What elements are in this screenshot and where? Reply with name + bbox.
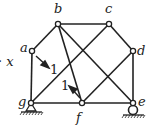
- label-a: a: [20, 40, 28, 55]
- label-e: e: [138, 94, 146, 109]
- arrowhead-icon: [69, 86, 77, 93]
- load-label-a: 1: [50, 62, 58, 77]
- label-g: g: [18, 94, 26, 109]
- joint-g: [28, 100, 33, 105]
- joint-b: [55, 21, 60, 26]
- load-label-f: 1: [61, 78, 69, 93]
- member-ab: [32, 24, 58, 51]
- joint-e: [130, 100, 135, 105]
- joint-f: [79, 100, 84, 105]
- side-label: · x: [0, 54, 14, 69]
- label-b: b: [54, 1, 62, 16]
- member-cd: [109, 24, 133, 51]
- member-ga: [31, 51, 32, 103]
- label-c: c: [105, 1, 113, 16]
- label-f: f: [75, 110, 83, 125]
- joint-c: [106, 21, 111, 26]
- joint-a: [29, 48, 34, 53]
- joint-d: [130, 48, 135, 53]
- label-d: d: [137, 43, 145, 58]
- roller-support-icon: [129, 106, 138, 115]
- truss-diagram: a b c d e f g 1 1 · x: [0, 0, 155, 126]
